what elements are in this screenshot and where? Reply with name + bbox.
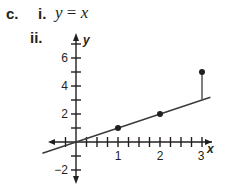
x-tick-label: 2 [157, 149, 164, 163]
data-point [115, 125, 121, 131]
y-tick-label: 2 [61, 107, 68, 121]
y-axis [71, 33, 81, 184]
data-point [157, 111, 163, 117]
data-point [199, 69, 205, 75]
y-tick-label: 6 [61, 51, 68, 65]
x-axis-left-arrow-icon [48, 139, 55, 145]
x-tick-label: 1 [115, 149, 122, 163]
graph: y x 1 2 3 −2 2 4 6 [0, 0, 232, 188]
y-tick-label: −2 [54, 163, 68, 177]
x-tick-label: 3 [198, 149, 205, 163]
y-axis-arrow-icon [73, 33, 79, 41]
y-tick-label: 4 [61, 79, 68, 93]
x-axis-label: x [206, 142, 215, 156]
fit-line [42, 97, 210, 153]
y-axis-label: y [82, 33, 91, 47]
y-axis-down-arrow-icon [73, 176, 79, 184]
x-axis [48, 137, 212, 147]
